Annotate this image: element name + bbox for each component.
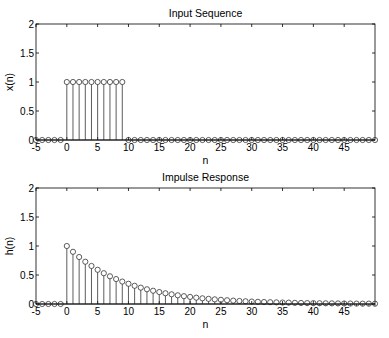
x-tick-label: 30: [246, 306, 258, 317]
impulse-response-plot: -505101520253035404500.511.52Impulse Res…: [3, 171, 378, 330]
y-axis-label: x(n): [3, 73, 15, 91]
y-tick-label: 1.5: [20, 212, 34, 223]
stem-marker: [89, 263, 94, 268]
stem-marker: [101, 79, 106, 84]
stem-marker: [70, 79, 75, 84]
stem-marker: [101, 271, 106, 276]
stem-marker: [107, 274, 112, 279]
stem-marker: [231, 298, 236, 303]
stem-marker: [163, 291, 168, 296]
stem-marker: [206, 296, 211, 301]
stem-marker: [151, 288, 156, 293]
stem-marker: [187, 294, 192, 299]
stem-marker: [126, 281, 131, 286]
stem-marker: [175, 293, 180, 298]
x-tick-label: 45: [339, 306, 351, 317]
x-tick-label: 35: [277, 142, 289, 153]
x-tick-label: 20: [185, 306, 197, 317]
x-tick-label: 35: [277, 306, 289, 317]
stem-marker: [89, 79, 94, 84]
x-tick-label: 0: [64, 306, 70, 317]
x-tick-label: 15: [154, 142, 166, 153]
x-tick-label: 45: [339, 142, 351, 153]
stem-marker: [64, 243, 69, 248]
axes-box: [36, 188, 375, 304]
chart-title: Impulse Response: [162, 171, 249, 183]
stem-marker: [83, 79, 88, 84]
stem-marker: [64, 79, 69, 84]
stem-marker: [114, 276, 119, 281]
stem-marker: [70, 249, 75, 254]
x-tick-label: 25: [215, 142, 227, 153]
stem-marker: [83, 259, 88, 264]
axes-box: [36, 24, 375, 140]
x-axis-label: n: [203, 318, 209, 330]
stem-marker: [194, 295, 199, 300]
stem-marker: [144, 287, 149, 292]
stem-marker: [114, 79, 119, 84]
x-axis-label: n: [203, 154, 209, 166]
x-tick-label: 0: [64, 142, 70, 153]
y-tick-label: 0.5: [20, 270, 34, 281]
y-tick-label: 1: [28, 77, 34, 88]
stem-marker: [212, 297, 217, 302]
y-axis-label: h(n): [3, 237, 15, 256]
stem-marker: [77, 254, 82, 259]
stem-marker: [132, 283, 137, 288]
x-tick-label: 20: [185, 142, 197, 153]
y-tick-label: 0.5: [20, 106, 34, 117]
stem-marker: [138, 285, 143, 290]
stem-marker: [181, 294, 186, 299]
y-tick-label: 1: [28, 241, 34, 252]
x-tick-label: 5: [95, 142, 101, 153]
chart-title: Input Sequence: [169, 7, 243, 19]
stem-marker: [95, 79, 100, 84]
x-tick-label: 25: [215, 306, 227, 317]
stem-marker: [120, 79, 125, 84]
y-tick-label: 1.5: [20, 48, 34, 59]
x-tick-label: 10: [123, 142, 135, 153]
input-sequence-plot: -505101520253035404500.511.52Input Seque…: [3, 7, 378, 166]
x-tick-label: 5: [95, 306, 101, 317]
stem-marker: [224, 298, 229, 303]
stem-marker: [243, 299, 248, 304]
x-tick-label: 40: [308, 306, 320, 317]
x-tick-label: 40: [308, 142, 320, 153]
stem-marker: [157, 289, 162, 294]
stem-marker: [237, 298, 242, 303]
stem-marker: [169, 292, 174, 297]
x-tick-label: 10: [123, 306, 135, 317]
stem-marker: [200, 296, 205, 301]
stem-marker: [95, 267, 100, 272]
x-tick-label: 30: [246, 142, 258, 153]
stem-marker: [107, 79, 112, 84]
x-tick-label: 15: [154, 306, 166, 317]
figure: -505101520253035404500.511.52Input Seque…: [0, 0, 389, 338]
stem-marker: [77, 79, 82, 84]
stem-marker: [120, 279, 125, 284]
y-tick-label: 2: [28, 19, 34, 30]
y-tick-label: 2: [28, 183, 34, 194]
